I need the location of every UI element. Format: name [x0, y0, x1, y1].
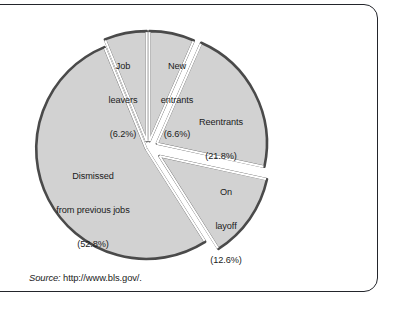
slice-label-new-entrants-line1: New — [148, 61, 206, 72]
figure-screenshot: Job leavers (6.2%) New entrants (6.6%) R… — [0, 0, 402, 309]
slice-label-on-layoff-value: (12.6%) — [196, 255, 256, 266]
slice-label-reentrants-value: (21.8%) — [182, 151, 260, 162]
slice-label-on-layoff-line2: layoff — [196, 221, 256, 232]
source-url: http://www.bls.gov/. — [61, 272, 142, 283]
slice-label-on-layoff-line1: On — [196, 187, 256, 198]
slice-label-on-layoff: On layoff (12.6%) — [196, 164, 256, 289]
source-note: Source: http://www.bls.gov/. — [29, 272, 142, 283]
slice-label-job-leavers: Job leavers (6.2%) — [96, 38, 150, 163]
source-label: Source: — [29, 272, 61, 283]
slice-label-dismissed-line1: Dismissed — [30, 171, 156, 182]
slice-label-dismissed-line2: from previous jobs — [30, 205, 156, 216]
slice-label-dismissed-from-previous-jobs: Dismissed from previous jobs (52.8%) — [30, 148, 156, 273]
slice-label-job-leavers-value: (6.2%) — [96, 129, 150, 140]
slice-label-job-leavers-line2: leavers — [96, 95, 150, 106]
slice-label-dismissed-value: (52.8%) — [30, 239, 156, 250]
slice-label-job-leavers-line1: Job — [96, 61, 150, 72]
slice-label-reentrants-line1: Reentrants — [182, 117, 260, 128]
pie-chart: Job leavers (6.2%) New entrants (6.6%) R… — [0, 0, 402, 309]
